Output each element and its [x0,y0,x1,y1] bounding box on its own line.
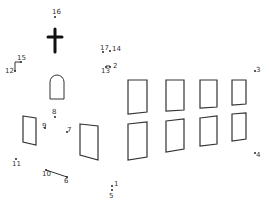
window-4 [166,80,184,111]
window-7 [128,122,147,160]
window-3 [128,80,147,114]
window-8 [166,119,184,152]
dot-12[interactable] [14,70,16,72]
dot-label-7: 7 [67,127,71,134]
cross-icon [48,29,62,52]
dot-label-13: 13 [101,68,110,75]
dot-label-2: 2 [113,63,117,70]
dot-label-14: 14 [112,46,121,53]
dot-1[interactable] [111,185,113,187]
dot-label-10: 10 [42,171,51,178]
dot-label-1: 1 [114,181,118,188]
dot-label-6: 6 [64,178,68,185]
dots-group [14,16,256,191]
dot-label-4: 4 [256,152,260,159]
dot-label-9: 9 [42,123,46,130]
dot-label-16: 16 [52,9,61,16]
dot-label-3: 3 [256,67,260,74]
dot-puzzle-canvas [0,0,269,209]
window-1 [23,116,36,145]
window-5 [200,80,217,108]
dot-label-11: 11 [12,161,21,168]
dot-label-15: 15 [17,55,26,62]
dot-14[interactable] [109,50,111,52]
dot-16[interactable] [54,16,56,18]
dot-label-5: 5 [109,193,113,200]
dot-label-8: 8 [52,109,56,116]
dot-label-17: 17 [100,45,109,52]
dot-5[interactable] [111,189,113,191]
window-9 [200,116,217,146]
window-6 [232,80,246,105]
window-10 [232,113,246,141]
dot-8[interactable] [54,116,56,118]
arched-window [50,75,64,99]
windows-group [23,80,246,160]
window-2 [80,124,98,160]
dot-label-12: 12 [5,68,14,75]
